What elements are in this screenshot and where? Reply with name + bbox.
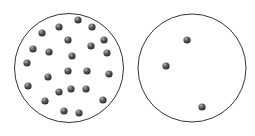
particle-icon xyxy=(44,73,51,80)
particle-icon xyxy=(45,48,52,55)
particle-icon xyxy=(41,97,48,104)
particle-icon xyxy=(55,23,62,30)
particle-icon xyxy=(198,103,205,110)
particle-icon xyxy=(60,107,67,114)
particle-icon xyxy=(55,88,62,95)
particle-icon xyxy=(74,16,81,23)
particle-diagram xyxy=(0,0,255,136)
particle-icon xyxy=(67,85,74,92)
particle-icon xyxy=(162,62,169,69)
particle-icon xyxy=(103,49,110,56)
particle-icon xyxy=(64,67,71,74)
particle-icon xyxy=(83,67,90,74)
particle-icon xyxy=(105,70,112,77)
particle-icon xyxy=(100,36,107,43)
particle-icon xyxy=(68,52,75,59)
dense-container xyxy=(15,14,124,123)
particle-icon xyxy=(88,23,95,30)
container-outline xyxy=(138,14,246,122)
particle-icon xyxy=(29,45,36,52)
particle-icon xyxy=(82,85,89,92)
particle-icon xyxy=(99,96,106,103)
particle-icon xyxy=(24,82,31,89)
particle-icon xyxy=(38,29,45,36)
particle-icon xyxy=(75,109,82,116)
particle-icon xyxy=(23,59,30,66)
particle-icon xyxy=(87,42,94,49)
sparse-container xyxy=(138,14,246,122)
particle-icon xyxy=(64,36,71,43)
particle-icon xyxy=(183,36,190,43)
